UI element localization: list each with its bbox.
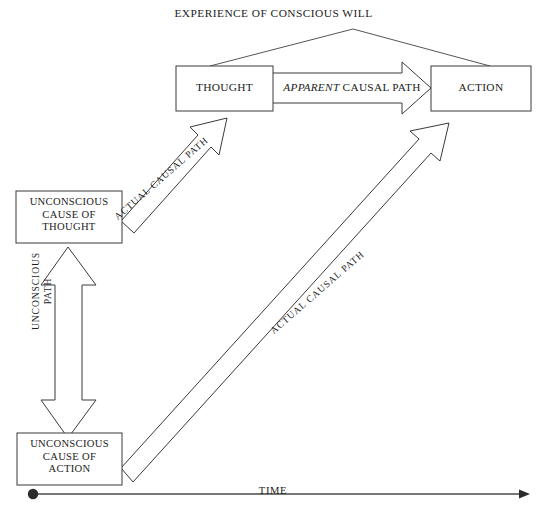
thought-box	[176, 66, 273, 111]
unconscious-path-arrow	[41, 247, 96, 438]
time-axis-arrowhead	[519, 490, 530, 499]
diagram-vector-layer	[0, 0, 547, 517]
unconscious-cause-of-thought-box	[16, 191, 122, 243]
diagram-canvas: EXPERIENCE OF CONSCIOUS WILL THOUGHT ACT…	[0, 0, 547, 517]
actual-causal-path-thought-arrow	[121, 118, 227, 233]
apparent-causal-path-arrow	[272, 62, 431, 114]
conscious-will-bracket	[210, 29, 490, 66]
time-origin-dot	[28, 489, 38, 499]
unconscious-cause-of-action-box	[17, 433, 122, 485]
action-box	[431, 66, 531, 111]
